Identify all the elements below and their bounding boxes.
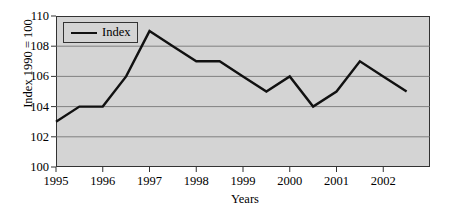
legend-line-swatch-icon <box>71 32 97 34</box>
y-tick-label: 110 <box>15 10 49 23</box>
line-chart: Index 1990 = 100 100102104106108110 1995… <box>0 0 451 216</box>
y-tick-label: 104 <box>15 101 49 114</box>
chart-legend: Index <box>63 22 138 43</box>
x-tick-label: 1997 <box>127 175 173 188</box>
x-axis-title: Years <box>190 192 300 207</box>
x-tick-label: 2002 <box>360 175 406 188</box>
x-tick-label: 2001 <box>314 175 360 188</box>
legend-label: Index <box>102 26 130 39</box>
y-tick-label: 106 <box>15 70 49 83</box>
x-axis-ticks <box>56 167 383 172</box>
y-tick-label: 102 <box>15 131 49 144</box>
x-tick-label: 2000 <box>267 175 313 188</box>
x-tick-label: 1996 <box>80 175 126 188</box>
x-tick-label: 1995 <box>33 175 79 188</box>
x-tick-label: 1999 <box>220 175 266 188</box>
x-tick-label: 1998 <box>173 175 219 188</box>
y-tick-label: 100 <box>15 161 49 174</box>
y-tick-label: 108 <box>15 40 49 53</box>
